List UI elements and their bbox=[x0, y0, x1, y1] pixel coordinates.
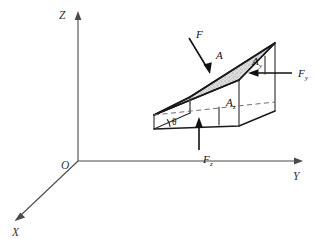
angle-theta-label: θ bbox=[172, 117, 177, 127]
label-force-z-sub: z bbox=[209, 160, 213, 168]
force-resultant-arrow bbox=[189, 38, 212, 74]
origin-label: O bbox=[61, 159, 70, 171]
label-area-y-base: A bbox=[251, 55, 259, 67]
y-axis-arrowhead bbox=[294, 158, 303, 165]
x-axis-label: X bbox=[11, 226, 20, 238]
z-axis-label: Z bbox=[59, 9, 66, 21]
label-force-z: F z bbox=[202, 153, 213, 168]
label-force-y: F y bbox=[297, 67, 309, 82]
y-axis bbox=[78, 158, 303, 165]
force-resultant-shaft bbox=[189, 38, 206, 66]
mechanics-diagram: Z Y X O bbox=[0, 0, 319, 239]
figure-root: Z Y X O bbox=[0, 0, 319, 239]
y-axis-label: Y bbox=[293, 170, 301, 182]
x-axis-arrowhead bbox=[15, 213, 26, 222]
label-area-inclined: A bbox=[215, 49, 223, 61]
label-force-z-base: F bbox=[202, 153, 210, 165]
label-area-z-sub: z bbox=[232, 103, 236, 111]
label-area-z-base: A bbox=[225, 96, 233, 108]
label-force-resultant: F bbox=[195, 28, 203, 40]
label-force-y-sub: y bbox=[304, 74, 309, 82]
z-axis-arrowhead bbox=[75, 11, 82, 20]
z-axis bbox=[75, 11, 82, 161]
label-force-y-base: F bbox=[297, 67, 305, 79]
